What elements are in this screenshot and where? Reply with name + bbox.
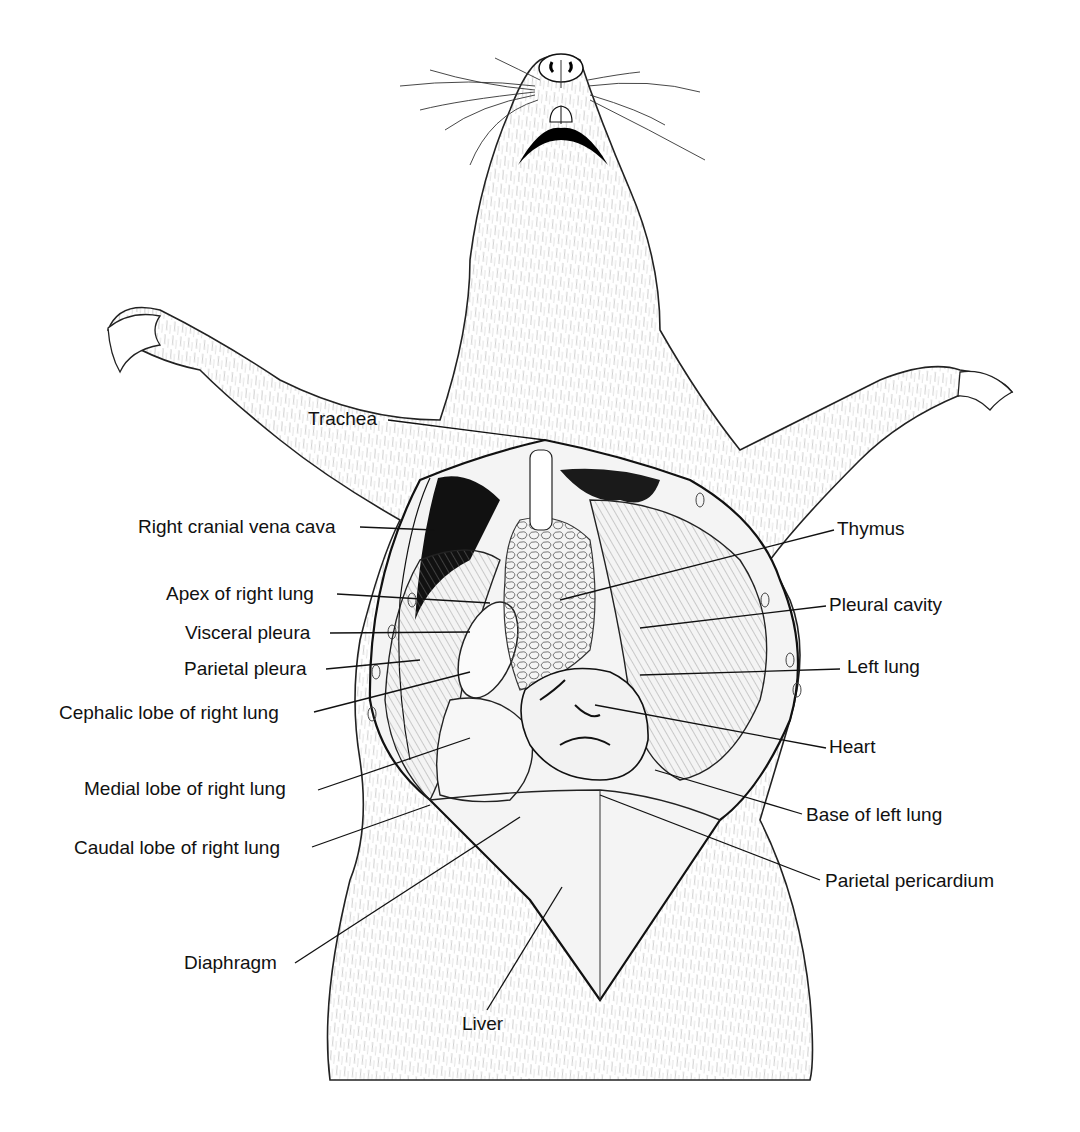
label-heart: Heart	[829, 736, 875, 758]
label-left-lung: Left lung	[847, 656, 920, 678]
label-caudal-lobe-of-right-lung: Caudal lobe of right lung	[74, 837, 280, 859]
trachea-shape	[530, 450, 552, 530]
label-parietal-pericardium: Parietal pericardium	[825, 870, 994, 892]
label-thymus: Thymus	[837, 518, 905, 540]
label-diaphragm: Diaphragm	[184, 952, 277, 974]
rat-illustration	[0, 0, 1080, 1132]
label-cephalic-lobe-of-right-lung: Cephalic lobe of right lung	[59, 702, 279, 724]
rat-thoracic-dissection-diagram: TracheaRight cranial vena cavaApex of ri…	[0, 0, 1080, 1132]
label-trachea: Trachea	[308, 408, 377, 430]
label-right-cranial-vena-cava: Right cranial vena cava	[138, 516, 336, 538]
label-apex-of-right-lung: Apex of right lung	[166, 583, 314, 605]
label-base-of-left-lung: Base of left lung	[806, 804, 942, 826]
label-parietal-pleura: Parietal pleura	[184, 658, 307, 680]
label-visceral-pleura: Visceral pleura	[185, 622, 310, 644]
label-pleural-cavity: Pleural cavity	[829, 594, 942, 616]
label-medial-lobe-of-right-lung: Medial lobe of right lung	[84, 778, 286, 800]
label-liver: Liver	[462, 1013, 503, 1035]
